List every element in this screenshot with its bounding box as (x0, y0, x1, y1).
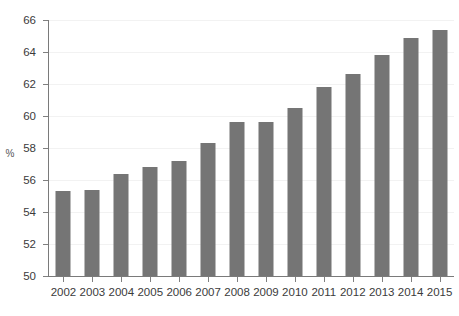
bar (230, 122, 245, 276)
x-axis-tick-label: 2011 (311, 286, 336, 298)
x-axis-tick-label: 2005 (137, 286, 163, 298)
x-axis-tick-label: 2008 (224, 286, 250, 298)
bar (143, 167, 158, 276)
bar-slot (425, 20, 454, 276)
x-axis-tick-label: 2013 (369, 286, 395, 298)
bar-slot (280, 20, 309, 276)
x-axis-tick-label: 2003 (80, 286, 106, 298)
x-axis-tick-label: 2014 (398, 286, 424, 298)
bar-slot (252, 20, 281, 276)
x-axis-tick-mark (179, 277, 180, 282)
bar (114, 174, 129, 276)
bar-slot (309, 20, 338, 276)
bar-slot (396, 20, 425, 276)
bar (403, 38, 418, 276)
x-axis-tick-mark (121, 277, 122, 282)
bar-slot (194, 20, 223, 276)
bar-chart: % 505254565860626466 2002200320042005200… (0, 0, 459, 316)
x-axis-tick-mark (150, 277, 151, 282)
bar (201, 143, 216, 276)
plot-area (49, 20, 454, 276)
bar (85, 190, 100, 276)
x-axis-tick-mark (63, 277, 64, 282)
bar-slot (49, 20, 78, 276)
y-axis-tick-label: 58 (10, 143, 42, 154)
bar (56, 191, 71, 276)
y-axis-tick-label: 52 (10, 239, 42, 250)
bar (287, 108, 302, 276)
x-axis-line (48, 276, 454, 277)
bar (258, 122, 273, 276)
x-axis-tick-mark (353, 277, 354, 282)
bar (345, 74, 360, 276)
y-axis-tick-label: 62 (10, 79, 42, 90)
y-axis-tick-label: 66 (10, 15, 42, 26)
y-axis-tick-label: 60 (10, 111, 42, 122)
bar (432, 30, 447, 276)
x-axis-tick-mark (440, 277, 441, 282)
x-axis-tick-label: 2015 (427, 286, 453, 298)
x-axis-tick-mark (411, 277, 412, 282)
x-axis-tick-mark (92, 277, 93, 282)
x-axis-tick-label: 2004 (109, 286, 135, 298)
x-axis-tick-mark (324, 277, 325, 282)
y-axis-tick-label: 50 (10, 271, 42, 282)
x-axis-tick-mark (237, 277, 238, 282)
x-axis-tick-mark (295, 277, 296, 282)
x-axis-tick-mark (266, 277, 267, 282)
bar (316, 87, 331, 276)
bar-slot (136, 20, 165, 276)
x-axis-tick-mark (382, 277, 383, 282)
y-axis-tick-label: 64 (10, 47, 42, 58)
y-axis-tick-labels: 505254565860626466 (10, 0, 42, 316)
x-axis-tick-mark (208, 277, 209, 282)
bar-slot (338, 20, 367, 276)
x-axis-tick-label: 2009 (253, 286, 279, 298)
bar-slot (107, 20, 136, 276)
x-axis-tick-label: 2006 (166, 286, 192, 298)
bar (374, 55, 389, 276)
bar-slot (78, 20, 107, 276)
x-axis-tick-label: 2002 (51, 286, 77, 298)
x-axis-tick-label: 2010 (282, 286, 308, 298)
bar-slot (165, 20, 194, 276)
bar-slot (223, 20, 252, 276)
y-axis-tick-label: 54 (10, 207, 42, 218)
y-axis-tick-label: 56 (10, 175, 42, 186)
bar (172, 161, 187, 276)
x-axis-tick-label: 2012 (340, 286, 366, 298)
bar-slot (367, 20, 396, 276)
x-axis-tick-label: 2007 (195, 286, 221, 298)
